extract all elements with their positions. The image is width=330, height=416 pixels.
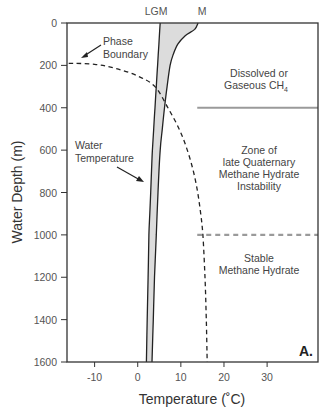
annotation-water-temperature: Water Temperature: [75, 139, 144, 182]
zone-instability-line-1: Zone of: [241, 144, 277, 156]
zone-stable-hydrate: Stable Methane Hydrate: [219, 252, 300, 276]
zone-instability-line-2: late Quaternary: [223, 156, 296, 168]
y-tick-label-200: 200: [39, 59, 57, 71]
annotation-phase-line-1: Phase: [103, 35, 133, 47]
annotation-water-line-1: Water: [75, 139, 103, 151]
x-tick-label-10: 10: [175, 371, 187, 383]
annotation-water-line-2: Temperature: [75, 152, 134, 164]
y-tick-label-1000: 1000: [34, 229, 58, 241]
zone-instability-line-3: Methane Hydrate: [219, 168, 300, 180]
zone-stable-line-1: Stable: [244, 252, 274, 264]
depth-temperature-chart: -100102030 02004006008001000120014001600…: [0, 0, 330, 416]
x-tick-label--10: -10: [87, 371, 102, 383]
series-label-lgm: LGM: [145, 5, 168, 17]
y-tick-label-1600: 1600: [34, 356, 58, 368]
zone-instability-line-4: Instability: [237, 180, 282, 192]
annotation-phase-boundary: Phase Boundary: [81, 35, 149, 60]
y-tick-label-0: 0: [51, 17, 57, 29]
y-tick-label-800: 800: [39, 187, 57, 199]
x-tick-label-20: 20: [218, 371, 230, 383]
zone-stable-line-2: Methane Hydrate: [219, 264, 300, 276]
zone-dissolved-gaseous: Dissolved or Gaseous CH4: [224, 67, 288, 93]
y-axis-title: Water Depth (m): [9, 141, 25, 244]
x-axis-title: Temperature (˚C): [139, 391, 246, 407]
zone-dissolved-subscript: 4: [284, 86, 288, 93]
zone-dissolved-line-2: Gaseous CH4: [224, 79, 288, 93]
y-tick-label-600: 600: [39, 144, 57, 156]
annotation-phase-line-2: Boundary: [103, 48, 149, 60]
y-axis-ticks: 02004006008001000120014001600: [34, 17, 67, 368]
series-label-m: M: [198, 5, 207, 17]
arrowhead-phase-boundary: [81, 52, 88, 58]
series-line-phase-boundary: [69, 63, 208, 362]
zone-dissolved-text: Gaseous CH: [224, 79, 284, 91]
arrow-water-temperature: [117, 167, 140, 180]
y-tick-label-1200: 1200: [34, 271, 58, 283]
zone-dissolved-line-1: Dissolved or: [230, 67, 288, 79]
y-tick-label-1400: 1400: [34, 314, 58, 326]
x-tick-label-0: 0: [135, 371, 141, 383]
x-tick-label-30: 30: [261, 371, 273, 383]
x-axis-ticks: -100102030: [87, 362, 273, 383]
y-tick-label-400: 400: [39, 102, 57, 114]
zone-instability: Zone of late Quaternary Methane Hydrate …: [219, 144, 300, 192]
series-lines: [69, 23, 208, 362]
panel-label: A.: [299, 343, 313, 359]
